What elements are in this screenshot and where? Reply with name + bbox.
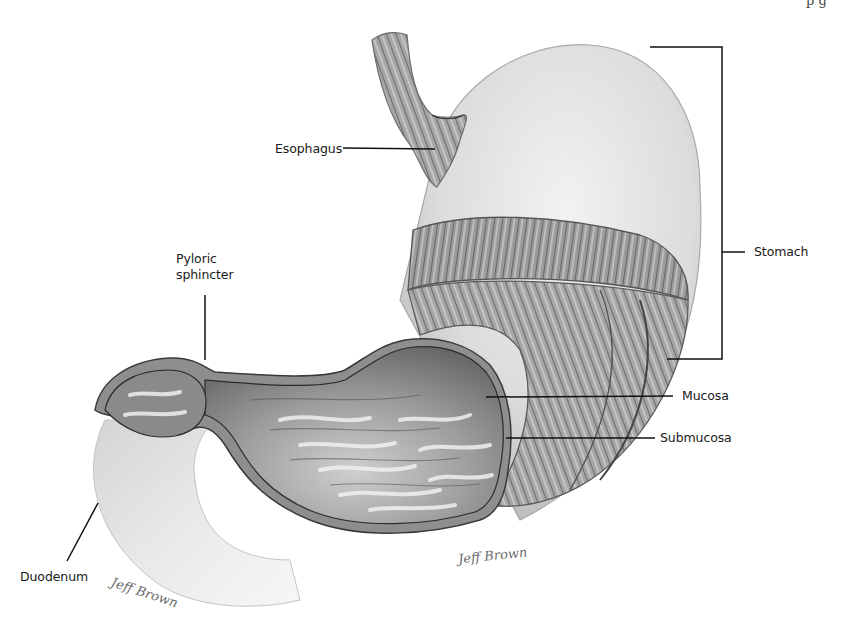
label-duodenum: Duodenum xyxy=(20,569,88,584)
label-stomach: Stomach xyxy=(754,244,808,259)
label-pyloric-sphincter-line2: sphincter xyxy=(176,267,233,282)
label-pyloric-sphincter-line1: Pyloric xyxy=(176,251,217,266)
top-right-cropped-text: p g xyxy=(806,0,827,8)
label-esophagus: Esophagus xyxy=(275,141,342,156)
label-submucosa: Submucosa xyxy=(660,430,732,445)
stomach-anatomy-illustration xyxy=(0,0,863,634)
label-mucosa: Mucosa xyxy=(682,388,729,403)
